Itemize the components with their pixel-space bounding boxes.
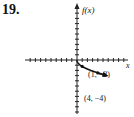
point-1-marker: [81, 65, 84, 68]
x-axis-label: x: [125, 61, 130, 70]
point-label-1: (1, −2): [88, 70, 110, 79]
function-graph: f(x) x (1, −2) (4, −4): [0, 0, 134, 117]
point-label-2: (4, −4): [84, 94, 106, 103]
y-axis-arrow-icon: [75, 3, 80, 9]
y-axis-label: f(x): [82, 5, 95, 15]
